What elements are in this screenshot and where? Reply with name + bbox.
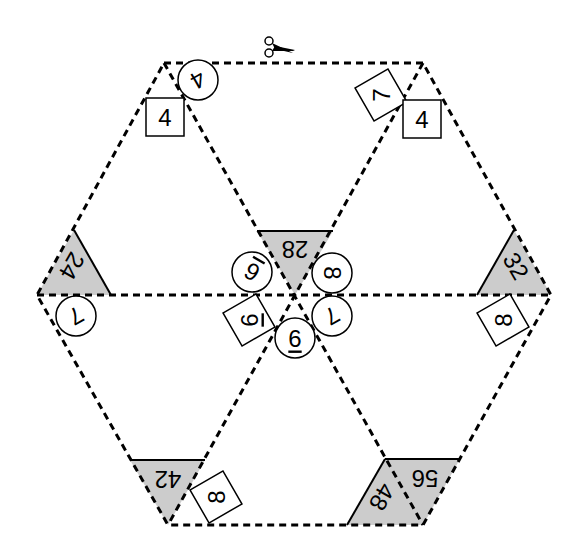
dashed-cut-lines [37,63,551,525]
svg-text:7: 7 [368,88,395,101]
svg-text:6: 6 [288,325,301,352]
box-label-4-topright: 4 [403,100,441,138]
svg-text:8: 8 [319,266,346,279]
svg-text:4: 4 [415,106,428,133]
circle-label-8-center-right: 8 [312,253,352,293]
box-label-6-center: 6 [223,294,275,346]
diagonal-diameter-1 [164,63,423,525]
circle-label-4-top: 4 [178,60,218,100]
box-label-7-topright: 7 [355,69,407,121]
box-label-8-right: 8 [477,294,529,346]
box-label-8-bottom: 8 [190,471,242,523]
circle-label-6-center-bottom: 6 [275,318,315,358]
tarsia-hexagon-puzzle: 28 24 32 42 48 56 4 7 6 8 7 6 [0,0,581,558]
label-28: 28 [282,236,309,263]
shaded-regions [37,230,551,525]
box-label-4-topleft: 4 [146,98,184,136]
svg-text:4: 4 [158,104,171,131]
label-42: 42 [155,466,182,493]
circle-label-7-left: 7 [56,296,96,336]
svg-text:6: 6 [236,313,263,326]
circle-label-6-center-left: 6 [232,252,272,292]
svg-text:8: 8 [203,490,230,503]
label-56: 56 [412,465,439,492]
svg-text:8: 8 [490,313,517,326]
scissors-icon [265,37,295,57]
circle-label-7-center-right: 7 [312,296,352,336]
